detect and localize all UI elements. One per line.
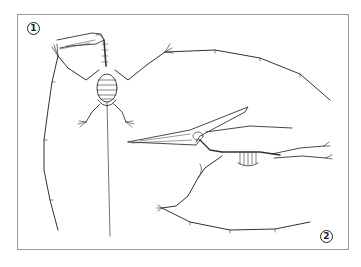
skeleton-2 (128, 107, 332, 233)
panel-label-1: 1 (27, 22, 40, 35)
panel-label-2: 2 (320, 230, 333, 243)
pterosaur-skeleton-illustration (0, 0, 361, 267)
